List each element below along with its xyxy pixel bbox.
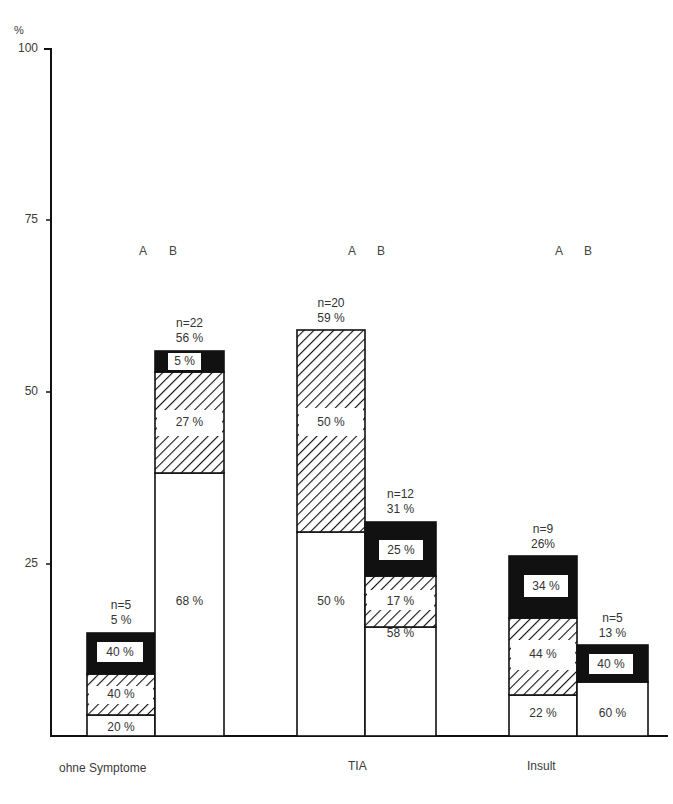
bar-header: n=9 26%: [509, 522, 577, 552]
segment-label-white: 22 %: [509, 706, 577, 720]
bar-header: n=22 56 %: [155, 316, 224, 346]
sample-size: n=5: [577, 611, 648, 626]
y-axis: [44, 49, 52, 737]
segment-label-hatched: 50 %: [297, 415, 365, 429]
y-tick-25: 25: [4, 556, 38, 570]
sample-size: n=20: [297, 296, 365, 311]
group-a-label: A: [348, 244, 356, 258]
y-axis-unit: %: [14, 24, 24, 36]
segment-label-black: 34 %: [524, 575, 568, 597]
y-tick-100: 100: [4, 41, 38, 55]
stacked-bar-chart: % 100 75 50 25 A B A B A B ohne Symptome…: [0, 0, 673, 804]
category-label-tia: TIA: [348, 759, 367, 773]
bar-total: 59 %: [297, 311, 365, 326]
bar-ohne-b: [155, 351, 224, 736]
chart-graphics: [0, 0, 673, 804]
sample-size: n=9: [509, 522, 577, 537]
bar-header: n=12 31 %: [365, 487, 436, 517]
sample-size: n=22: [155, 316, 224, 331]
sample-size: n=12: [365, 487, 436, 502]
segment-label-hatched: 27 %: [155, 415, 224, 429]
segment-label-white: 68 %: [155, 594, 224, 608]
segment-label-white: 50 %: [297, 594, 365, 608]
group-b-label: B: [584, 244, 592, 258]
group-a-label: A: [555, 244, 563, 258]
bar-total: 13 %: [577, 626, 648, 641]
segment-label-black: 25 %: [379, 540, 423, 560]
segment-label-white: 20 %: [87, 720, 155, 734]
segment-label-black: 5 %: [168, 353, 201, 370]
category-label-ohne-symptome: ohne Symptome: [59, 761, 146, 775]
bar-total: 31 %: [365, 502, 436, 517]
group-b-label: B: [169, 244, 177, 258]
bar-total: 26%: [509, 537, 577, 552]
group-b-label: B: [377, 244, 385, 258]
segment-label-hatched: 40 %: [87, 687, 155, 701]
segment-label-hatched: 17 %: [365, 594, 436, 608]
bar-header: n=20 59 %: [297, 296, 365, 326]
segment-label-white: 60 %: [577, 706, 648, 720]
bar-total: 5 %: [87, 613, 155, 628]
bar-tia-a: [297, 330, 365, 736]
y-tick-50: 50: [4, 384, 38, 398]
sample-size: n=5: [87, 598, 155, 613]
segment-label-hatched: 44 %: [509, 647, 577, 661]
category-label-insult: Insult: [527, 759, 556, 773]
segment-label-white: 58 %: [365, 626, 436, 640]
bar-total: 56 %: [155, 331, 224, 346]
segment-label-black: 40 %: [589, 654, 633, 674]
bar-header: n=5 13 %: [577, 611, 648, 641]
bar-header: n=5 5 %: [87, 598, 155, 628]
group-a-label: A: [139, 244, 147, 258]
y-tick-75: 75: [4, 212, 38, 226]
segment-label-black: 40 %: [97, 642, 143, 662]
